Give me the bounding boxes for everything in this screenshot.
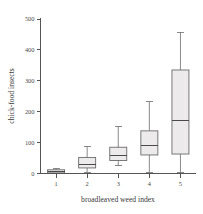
y-tick-label: 300 (25, 77, 35, 84)
boxplot-box (110, 127, 127, 166)
boxplot-box (48, 169, 65, 174)
y-tick-label: 500 (25, 15, 35, 22)
x-tick-label: 1 (54, 180, 57, 187)
y-tick-label: 400 (25, 46, 35, 53)
boxplot-box (141, 102, 158, 173)
x-axis-title: broadleaved weed index (81, 195, 155, 204)
chart-canvas: 0100200300400500 12345 chick-food insect… (0, 0, 203, 214)
box-series (48, 32, 189, 173)
boxplot-figure: 0100200300400500 12345 chick-food insect… (0, 0, 203, 214)
y-tick-label: 100 (25, 139, 35, 146)
boxplot-box (172, 32, 189, 172)
box-iqr (141, 131, 158, 155)
x-tick-label: 4 (148, 180, 152, 187)
y-tick-label: 200 (25, 108, 35, 115)
x-axis-ticks: 12345 (54, 174, 182, 187)
x-tick-label: 5 (179, 180, 182, 187)
box-iqr (172, 70, 189, 154)
y-axis-title: chick-food insects (7, 68, 16, 124)
y-axis-ticks: 0100200300400500 (25, 15, 41, 177)
box-iqr (110, 147, 127, 160)
box-iqr (79, 157, 96, 168)
y-tick-label: 0 (31, 170, 34, 177)
plot-area: 0100200300400500 12345 chick-food insect… (0, 0, 203, 214)
x-tick-label: 2 (86, 180, 89, 187)
boxplot-box (79, 146, 96, 172)
x-tick-label: 3 (117, 180, 120, 187)
